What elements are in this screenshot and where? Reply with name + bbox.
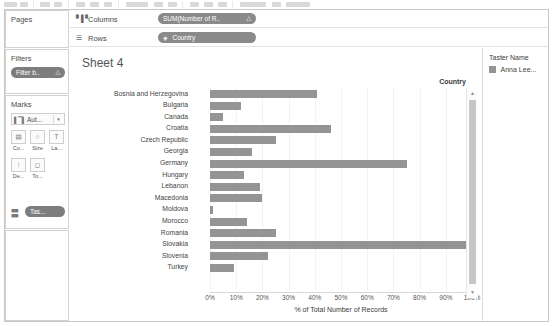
filter-pill-label: Filter b..	[16, 69, 39, 76]
empty-card-area	[5, 230, 69, 321]
bar[interactable]	[210, 90, 317, 98]
columns-shelf[interactable]: ▘▌▘ Columns △ SUM(Number of R..	[70, 10, 548, 28]
bar[interactable]	[210, 194, 262, 202]
bar-row[interactable]: Moldova	[70, 204, 466, 216]
toolbar-icon-back[interactable]	[4, 2, 17, 7]
marks-color-button[interactable]: ▤ Co...	[11, 130, 26, 152]
bar[interactable]	[210, 264, 234, 272]
x-axis-tick-label: 40%	[308, 294, 321, 301]
bar[interactable]	[210, 148, 252, 156]
toolbar-separator	[118, 1, 119, 8]
bar[interactable]	[210, 229, 276, 237]
bar-row[interactable]: Slovakia	[70, 239, 466, 251]
filters-card-title: Filters	[11, 54, 31, 63]
toolbar-icon-forward[interactable]	[20, 2, 28, 7]
chevron-down-icon[interactable]: ▾	[53, 115, 63, 124]
toolbar-icon-fix-axes[interactable]	[272, 2, 281, 7]
bar[interactable]	[210, 113, 223, 121]
toolbar-icon-save[interactable]	[40, 2, 50, 7]
marks-tooltip-button[interactable]: ◻ To...	[30, 158, 45, 180]
bar-row-label: Moldova	[162, 205, 188, 212]
toolbar-icon-group[interactable]	[204, 2, 213, 7]
view-vertical-scrollbar[interactable]: ▲ ▼	[466, 88, 477, 298]
bar-row[interactable]: Croatia	[70, 123, 466, 135]
scroll-down-icon[interactable]: ▼	[467, 287, 478, 298]
bar[interactable]	[210, 206, 213, 214]
worksheet-view[interactable]: Sheet 4 Country Bosnia and HerzegovinaBu…	[70, 48, 483, 321]
legend-item[interactable]: Anna Lee...	[489, 66, 536, 73]
toolbar-icon-duplicate[interactable]	[90, 2, 99, 7]
marks-label-button[interactable]: T La...	[49, 130, 64, 152]
bar[interactable]	[210, 125, 331, 133]
toolbar-icon-highlight[interactable]	[190, 2, 199, 7]
bar-mark-icon: ▌▔▌	[14, 116, 26, 123]
bar-row[interactable]: Hungary	[70, 169, 466, 181]
tableau-worksheet: Pages Filters △ Filter b.. Marks ▌▔▌ Aut…	[0, 0, 553, 326]
bar-row[interactable]: Slovenia	[70, 250, 466, 262]
bar-row[interactable]: Romania	[70, 227, 466, 239]
bar[interactable]	[210, 252, 268, 260]
bar[interactable]	[210, 218, 247, 226]
legend-swatch	[489, 66, 496, 73]
scrollbar-thumb[interactable]	[469, 100, 476, 284]
bar[interactable]	[210, 171, 244, 179]
columns-pill-sum-number-of-records[interactable]: △ SUM(Number of R..	[158, 13, 256, 24]
size-icon: ○	[30, 130, 45, 144]
bar-row[interactable]: Germany	[70, 158, 466, 170]
bar-row[interactable]: Bulgaria	[70, 100, 466, 112]
toolbar-fit-dropdown[interactable]	[240, 2, 266, 7]
marks-color-pill[interactable]: Tas...	[25, 206, 65, 217]
left-cards-column: Pages Filters △ Filter b.. Marks ▌▔▌ Aut…	[5, 10, 69, 321]
marks-size-button[interactable]: ○ Size	[30, 130, 45, 152]
bar-row[interactable]: Turkey	[70, 262, 466, 274]
toolbar-separator	[68, 1, 69, 8]
bar-row[interactable]: Georgia	[70, 146, 466, 158]
filter-pill[interactable]: △ Filter b..	[11, 67, 65, 78]
x-axis-tick-label: 10%	[230, 294, 243, 301]
toolbar-icon-sort-desc[interactable]	[168, 2, 177, 7]
bar-row-label: Georgia	[164, 147, 188, 154]
tooltip-icon: ◻	[30, 158, 45, 172]
color-icon: ▤	[11, 130, 26, 144]
rows-shelf[interactable]: ☰ Rows ◈ Country	[70, 29, 548, 47]
mark-type-dropdown[interactable]: ▌▔▌ Aut... ▾	[11, 113, 65, 125]
x-axis-line	[210, 292, 472, 293]
bar-row[interactable]: Macedonia	[70, 192, 466, 204]
bar-row-label: Germany	[160, 159, 188, 166]
x-axis-tick-label: 20%	[256, 294, 269, 301]
bar[interactable]	[210, 241, 466, 249]
bar-row[interactable]: Bosnia and Herzegovina	[70, 88, 466, 100]
bar-chart-plot[interactable]: Bosnia and HerzegovinaBulgariaCanadaCroa…	[70, 88, 466, 290]
country-field-header: Country	[70, 78, 466, 85]
toolbar-icon-clear[interactable]	[104, 2, 112, 7]
mark-type-label: Aut...	[27, 116, 42, 123]
bar[interactable]	[210, 183, 260, 191]
rows-pill-country[interactable]: ◈ Country	[158, 32, 256, 43]
bar-row[interactable]: Morocco	[70, 216, 466, 228]
scroll-up-icon[interactable]: ▲	[467, 88, 478, 99]
color-legend[interactable]: Taster Name Anna Lee...	[484, 48, 548, 321]
marks-color-pill-label: Tas...	[30, 208, 46, 215]
toolbar-icon-new-sheet[interactable]	[76, 2, 85, 7]
bar[interactable]	[210, 102, 241, 110]
toolbar-icon-show-me[interactable]	[286, 2, 310, 7]
bar-row-label: Hungary	[162, 171, 188, 178]
columns-shelf-label: Columns	[88, 15, 118, 24]
bar-row-label: Macedonia	[155, 194, 188, 201]
application-toolbar[interactable]	[0, 0, 553, 9]
marks-card[interactable]: Marks ▌▔▌ Aut... ▾ ▤ Co... ○ Size T La..…	[5, 95, 69, 229]
toolbar-icon-undo[interactable]	[54, 2, 62, 7]
bar-row[interactable]: Lebanon	[70, 181, 466, 193]
toolbar-icon-swap[interactable]	[126, 2, 148, 7]
filters-card[interactable]: Filters △ Filter b..	[5, 49, 69, 94]
marks-detail-button[interactable]: ⁝ De...	[11, 158, 26, 180]
triangle-icon: △	[55, 67, 60, 78]
pages-card[interactable]: Pages	[5, 10, 69, 48]
toolbar-icon-labels[interactable]	[218, 2, 227, 7]
bar-row[interactable]: Czech Republic	[70, 134, 466, 146]
color-dots-icon: ■■■■	[11, 208, 17, 218]
toolbar-icon-sort-asc[interactable]	[154, 2, 163, 7]
bar-row[interactable]: Canada	[70, 111, 466, 123]
bar[interactable]	[210, 160, 407, 168]
bar[interactable]	[210, 136, 276, 144]
